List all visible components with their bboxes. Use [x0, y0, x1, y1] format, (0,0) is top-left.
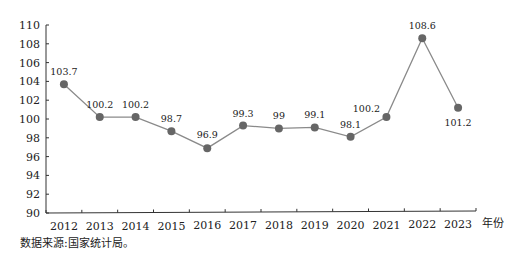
data-point [418, 34, 426, 42]
data-label: 100.2 [86, 99, 113, 110]
data-label: 108.6 [409, 20, 436, 31]
data-label: 100.2 [353, 103, 380, 114]
y-tick-label: 98 [26, 132, 40, 145]
x-tick-label: 2021 [372, 219, 400, 232]
data-point [454, 104, 462, 112]
data-label: 99.3 [233, 108, 254, 119]
data-point [60, 80, 68, 88]
data-line [64, 38, 458, 148]
x-tick-label: 2017 [229, 219, 257, 232]
x-axis-title: 年份 [482, 216, 504, 230]
x-tick-label: 2016 [193, 219, 221, 232]
y-tick-label: 96 [26, 151, 40, 164]
x-tick-label: 2018 [265, 219, 293, 232]
data-point [203, 144, 211, 152]
y-tick-label: 104 [19, 75, 40, 88]
x-tick-label: 2022 [408, 218, 436, 231]
x-tick-label: 2012 [50, 220, 78, 233]
x-tick-label: 2020 [337, 219, 365, 232]
data-label: 99.1 [304, 109, 325, 120]
y-tick-label: 94 [26, 169, 40, 182]
data-label: 100.2 [122, 99, 149, 110]
y-tick-label: 110 [19, 19, 40, 32]
data-point [132, 113, 140, 121]
data-label: 98.7 [161, 113, 182, 124]
data-point [96, 113, 104, 121]
data-point [347, 133, 355, 141]
data-point [382, 113, 390, 121]
x-tick-label: 2019 [301, 219, 329, 232]
y-tick-label: 100 [19, 113, 40, 126]
x-tick-label: 2023 [444, 218, 472, 231]
data-point [311, 123, 319, 131]
data-label: 99 [273, 110, 285, 121]
data-label: 101.2 [444, 117, 471, 128]
data-point [239, 122, 247, 130]
source-note: 数据来源:国家统计局。 [20, 234, 134, 250]
y-tick-label: 106 [19, 57, 40, 70]
x-tick-label: 2014 [122, 220, 150, 233]
data-point [275, 124, 283, 132]
y-tick-label: 92 [26, 188, 40, 201]
line-chart: 9092949698100102104106108110201220132014… [0, 0, 517, 260]
y-tick-label: 108 [19, 38, 40, 51]
data-label: 103.7 [50, 66, 77, 77]
data-label: 96.9 [197, 129, 218, 140]
x-tick-label: 2015 [157, 220, 185, 233]
y-tick-label: 102 [19, 94, 40, 107]
data-label: 98.1 [340, 119, 361, 130]
x-tick-label: 2013 [86, 220, 114, 233]
data-point [167, 127, 175, 135]
y-tick-label: 90 [26, 207, 40, 220]
